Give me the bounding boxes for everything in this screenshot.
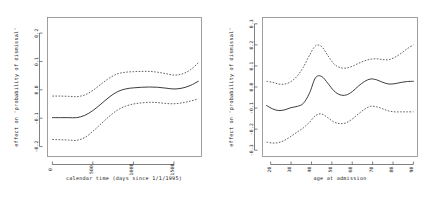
y-axis-tick-label: -0.1 bbox=[34, 112, 39, 124]
x-axis-tick-label: 1500 bbox=[170, 163, 175, 175]
fitted-smooth-curve bbox=[52, 81, 198, 117]
gam-smooth-figure: 050010001500 -0.2-0.10.00.10.2 calendar … bbox=[0, 0, 431, 200]
x-axis-tick-label: 20 bbox=[267, 166, 272, 172]
panel-age-at-admission: 2030405060708090 -0.3-0.2-0.10.00.10.20.… bbox=[216, 0, 431, 200]
x-axis-tick-label: 80 bbox=[389, 166, 394, 172]
y-axis-tick-label: 0.0 bbox=[249, 82, 254, 91]
x-axis-tick-label: 50 bbox=[328, 166, 333, 172]
x-axis-tick-label: 90 bbox=[409, 166, 414, 172]
y-axis-tick-label: 0.1 bbox=[34, 57, 39, 66]
y-axis-tick-label: 0.2 bbox=[34, 29, 39, 38]
x-axis-title: calendar time (days since 1/1/1995) bbox=[66, 175, 182, 182]
plot-frame bbox=[48, 18, 202, 157]
y-axis-tick-label: -0.2 bbox=[34, 141, 39, 153]
y-axis-tick-label: 0.3 bbox=[249, 19, 254, 28]
panel-calendar-time: 050010001500 -0.2-0.10.00.10.2 calendar … bbox=[0, 0, 215, 200]
x-axis-tick-label: 60 bbox=[348, 166, 353, 172]
lower-confidence-band bbox=[267, 106, 414, 143]
fitted-smooth-curve bbox=[267, 76, 414, 111]
x-axis-tick-label: 70 bbox=[369, 166, 374, 172]
panel-right-plot-area bbox=[263, 18, 418, 157]
upper-confidence-band bbox=[52, 63, 198, 97]
y-axis: -0.2-0.10.00.10.2 bbox=[34, 29, 43, 153]
panel-left-canvas: 050010001500 -0.2-0.10.00.10.2 calendar … bbox=[0, 0, 215, 200]
y-axis-tick-label: 0.2 bbox=[249, 40, 254, 49]
y-axis: -0.3-0.2-0.10.00.10.20.3 bbox=[249, 19, 258, 156]
y-axis-tick-label: -0.2 bbox=[249, 123, 254, 135]
y-axis-tick-label: -0.1 bbox=[249, 102, 254, 114]
x-axis-tick-label: 500 bbox=[89, 165, 94, 174]
x-axis-title: age at admission bbox=[313, 175, 366, 182]
y-axis-tick-label: 0.0 bbox=[34, 85, 39, 94]
x-axis-tick-label: 1000 bbox=[129, 163, 134, 175]
y-axis-tick-label: 0.1 bbox=[249, 61, 254, 70]
y-axis-title: effect on 'probability of dismissal' bbox=[13, 27, 20, 146]
x-axis: 2030405060708090 bbox=[267, 162, 415, 173]
plot-frame bbox=[263, 18, 418, 157]
upper-confidence-band bbox=[267, 45, 414, 84]
x-axis-tick-label: 40 bbox=[307, 166, 312, 172]
y-axis-title: effect on 'probability of dismissal' bbox=[228, 27, 235, 146]
y-axis-tick-label: -0.3 bbox=[249, 144, 254, 156]
panel-right-canvas: 2030405060708090 -0.3-0.2-0.10.00.10.20.… bbox=[216, 0, 431, 200]
x-axis-tick-label: 0 bbox=[48, 168, 53, 171]
x-axis: 050010001500 bbox=[48, 162, 175, 176]
panel-left-plot-area bbox=[48, 18, 202, 157]
x-axis-tick-label: 30 bbox=[287, 166, 292, 172]
lower-confidence-band bbox=[52, 99, 198, 141]
